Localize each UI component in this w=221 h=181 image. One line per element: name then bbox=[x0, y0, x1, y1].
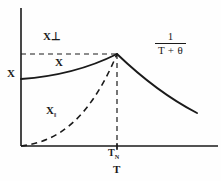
chi-total-symbol: Χ bbox=[55, 56, 63, 68]
neel-temperature-label: TN bbox=[108, 148, 119, 160]
chi-parallel-symbol: Χ bbox=[46, 104, 54, 116]
chi-parallel-label: Χ‖ bbox=[46, 105, 56, 119]
chi-axis-symbol: Χ bbox=[7, 67, 15, 79]
chi-total-curve-below-tn bbox=[21, 54, 117, 79]
y-axis-label: Χ bbox=[7, 68, 15, 79]
t-axis-symbol: T bbox=[113, 163, 120, 175]
tn-base: T bbox=[108, 147, 115, 158]
curie-weiss-tail-curve bbox=[117, 54, 197, 113]
chi-perp-symbol: Χ⊥ bbox=[43, 30, 61, 42]
x-axis-label: T bbox=[113, 164, 120, 175]
fraction: 1 T + θ bbox=[155, 31, 186, 56]
susceptibility-vs-temperature-figure: Χ⊥ Χ Χ Χ‖ 1 T + θ TN T bbox=[0, 0, 221, 181]
fraction-numerator: 1 bbox=[155, 31, 186, 43]
chi-total-label: Χ bbox=[55, 57, 63, 68]
curie-weiss-formula: 1 T + θ bbox=[155, 31, 186, 56]
chi-parallel-curve bbox=[21, 54, 117, 146]
fraction-denominator: T + θ bbox=[155, 44, 186, 56]
chi-perpendicular-label: Χ⊥ bbox=[43, 31, 61, 42]
tn-subscript: N bbox=[115, 153, 119, 160]
chi-parallel-subscript: ‖ bbox=[54, 111, 56, 118]
